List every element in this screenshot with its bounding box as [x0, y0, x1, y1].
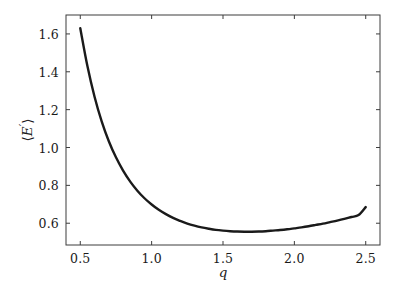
y-label-symbol: E [19, 126, 35, 136]
x-axis-label: q [219, 264, 228, 280]
chart-figure: 0.51.01.52.02.5 0.60.81.01.21.41.6 q ⟨E′… [0, 0, 402, 293]
x-tick-label: 1.0 [141, 251, 161, 266]
plot-canvas [0, 0, 402, 293]
x-tick-label: 2.0 [284, 251, 304, 266]
y-label-open-bracket: ⟨ [19, 136, 35, 141]
x-tick-label: 0.5 [70, 251, 90, 266]
x-tick-label: 2.5 [355, 251, 375, 266]
y-axis-label: ⟨E′⟩ [17, 119, 36, 142]
y-label-close-bracket: ⟩ [19, 119, 35, 124]
axes-frame [66, 15, 380, 245]
y-label-prime: ′ [17, 124, 30, 127]
